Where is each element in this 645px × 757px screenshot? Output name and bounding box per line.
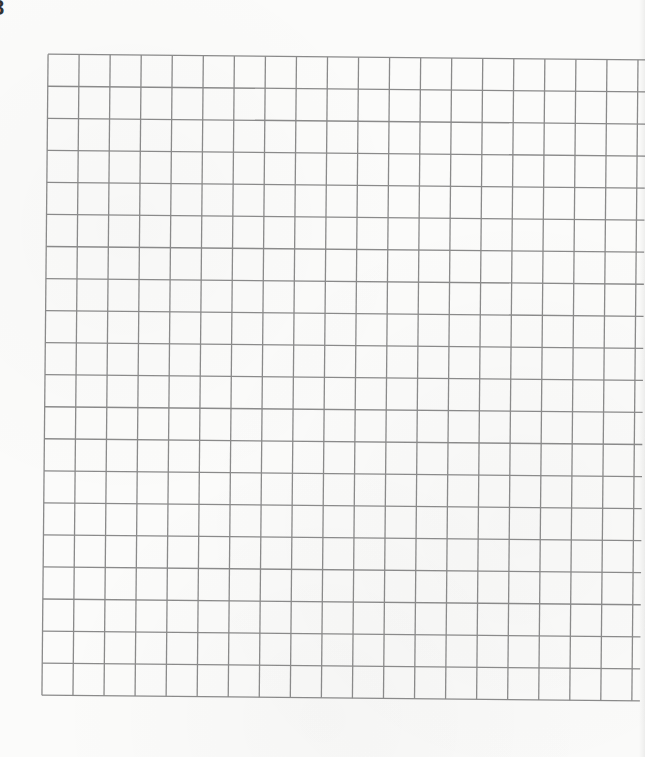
grid-horizontal-line — [43, 535, 641, 541]
grid-horizontal-line — [42, 663, 640, 669]
blank-coordinate-grid — [41, 53, 637, 700]
grid-horizontal-line — [44, 471, 642, 477]
graph-paper-page: 8 — [0, 0, 645, 757]
grid-horizontal-line — [47, 182, 645, 188]
grid-horizontal-line — [43, 567, 641, 573]
grid-horizontal-line — [45, 375, 643, 381]
grid-horizontal-line — [45, 343, 643, 349]
grid-lines — [41, 53, 645, 702]
grid-horizontal-line — [44, 439, 642, 445]
grid-horizontal-line — [48, 54, 645, 60]
grid-horizontal-line — [43, 631, 641, 637]
grid-horizontal-line — [46, 311, 644, 317]
grid-horizontal-line — [47, 150, 645, 156]
grid-horizontal-line — [42, 695, 640, 701]
grid-horizontal-line — [46, 246, 644, 252]
grid-horizontal-line — [45, 407, 643, 413]
grid-horizontal-line — [46, 279, 644, 285]
grid-horizontal-line — [48, 86, 645, 92]
problem-number: 8 — [0, 0, 4, 19]
grid-horizontal-line — [47, 214, 645, 220]
grid-horizontal-line — [43, 599, 641, 605]
scan-edge-shadow — [639, 0, 645, 757]
grid-horizontal-line — [44, 503, 642, 509]
grid-horizontal-line — [47, 118, 645, 124]
